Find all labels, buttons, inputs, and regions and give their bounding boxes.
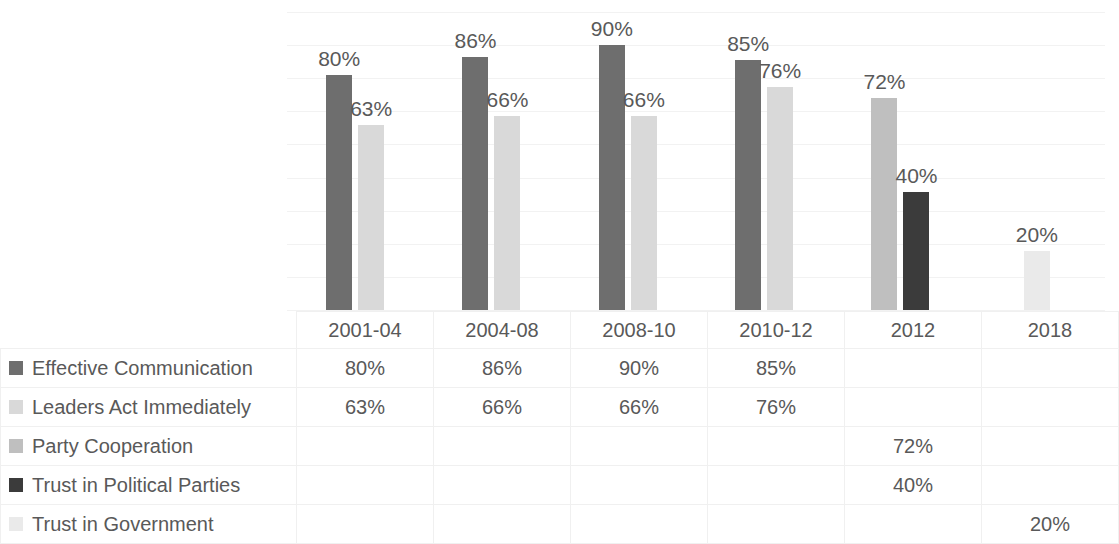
bar-value-label: 80% xyxy=(318,48,360,69)
table-row: Effective Communication80%86%90%85% xyxy=(1,349,1119,388)
data-table: 2001-042004-082008-102010-1220122018Effe… xyxy=(0,311,1119,544)
bar-slot: 63% xyxy=(358,0,384,310)
bar-value-label: 85% xyxy=(727,33,769,54)
bar-group-2010-12: 85%76% xyxy=(696,0,832,311)
category-header-2001-04: 2001-04 xyxy=(297,312,434,349)
legend-entry: Trust in Government xyxy=(9,513,296,535)
legend-swatch-party-cooperation xyxy=(9,439,23,453)
legend-cell[interactable]: Party Cooperation xyxy=(1,427,297,466)
bar-value-label: 66% xyxy=(623,89,665,110)
bar-effective-communication-2010-12[interactable] xyxy=(735,60,761,310)
bar-group-bars: 20% xyxy=(969,0,1105,310)
table-cell-2012 xyxy=(845,505,982,544)
bar-leaders-act-immediately-2001-04[interactable] xyxy=(358,125,384,310)
legend-label: Party Cooperation xyxy=(32,435,193,457)
legend-cell[interactable]: Leaders Act Immediately xyxy=(1,388,297,427)
bar-value-label: 20% xyxy=(1016,224,1058,245)
bar-slot: 76% xyxy=(767,0,793,310)
category-header-2012: 2012 xyxy=(845,312,982,349)
bar-slot: 86% xyxy=(462,0,488,310)
bar-group-2018: 20% xyxy=(969,0,1105,311)
table-cell-2018: 20% xyxy=(982,505,1119,544)
legend-cell[interactable]: Trust in Political Parties xyxy=(1,466,297,505)
legend-entry: Effective Communication xyxy=(9,357,296,379)
bar-group-2008-10: 90%66% xyxy=(560,0,696,311)
table-cell-2010-12 xyxy=(708,466,845,505)
table-cell-2004-08: 66% xyxy=(434,388,571,427)
table-row: Leaders Act Immediately63%66%66%76% xyxy=(1,388,1119,427)
table-cell-2008-10 xyxy=(571,505,708,544)
legend-cell[interactable]: Trust in Government xyxy=(1,505,297,544)
category-header-2010-12: 2010-12 xyxy=(708,312,845,349)
legend-entry: Trust in Political Parties xyxy=(9,474,296,496)
bar-effective-communication-2008-10[interactable] xyxy=(599,45,625,310)
bar-group-2012: 72%40% xyxy=(832,0,968,311)
table-cell-2012: 40% xyxy=(845,466,982,505)
category-header-2004-08: 2004-08 xyxy=(434,312,571,349)
bar-leaders-act-immediately-2004-08[interactable] xyxy=(494,116,520,310)
table-cell-2001-04 xyxy=(297,505,434,544)
bar-slot: 90% xyxy=(599,0,625,310)
bar-value-label: 40% xyxy=(895,165,937,186)
table-cell-2010-12: 76% xyxy=(708,388,845,427)
table-cell-2012 xyxy=(845,349,982,388)
bar-trust-in-political-parties-2012[interactable] xyxy=(903,192,929,310)
bar-group-bars: 85%76% xyxy=(696,0,832,310)
bar-value-label: 66% xyxy=(486,89,528,110)
bar-slot: 85% xyxy=(735,0,761,310)
table-cell-2018 xyxy=(982,388,1119,427)
bar-leaders-act-immediately-2008-10[interactable] xyxy=(631,116,657,310)
table-cell-2018 xyxy=(982,466,1119,505)
bar-value-label: 72% xyxy=(863,71,905,92)
table-cell-2010-12 xyxy=(708,427,845,466)
bar-value-label: 90% xyxy=(591,18,633,39)
bar-group-bars: 90%66% xyxy=(560,0,696,310)
table-row: Party Cooperation72% xyxy=(1,427,1119,466)
bar-slot: 66% xyxy=(631,0,657,310)
legend-swatch-trust-in-political-parties xyxy=(9,478,23,492)
bar-group-2001-04: 80%63% xyxy=(287,0,423,311)
table-cell-2012: 72% xyxy=(845,427,982,466)
bar-group-bars: 86%66% xyxy=(423,0,559,310)
table-row: Trust in Political Parties40% xyxy=(1,466,1119,505)
legend-entry: Party Cooperation xyxy=(9,435,296,457)
bar-effective-communication-2004-08[interactable] xyxy=(462,57,488,310)
bar-slot: 66% xyxy=(494,0,520,310)
legend-label: Effective Communication xyxy=(32,357,253,379)
table-cell-2004-08 xyxy=(434,466,571,505)
table-row: Trust in Government20% xyxy=(1,505,1119,544)
bar-slot: 40% xyxy=(903,0,929,310)
bar-leaders-act-immediately-2010-12[interactable] xyxy=(767,87,793,310)
legend-swatch-leaders-act-immediately xyxy=(9,400,23,414)
legend-cell[interactable]: Effective Communication xyxy=(1,349,297,388)
bar-party-cooperation-2012[interactable] xyxy=(871,98,897,310)
table-cell-2004-08 xyxy=(434,427,571,466)
table-cell-2010-12 xyxy=(708,505,845,544)
bar-slot: 72% xyxy=(871,0,897,310)
bar-trust-in-government-2018[interactable] xyxy=(1024,251,1050,310)
table-cell-2001-04: 63% xyxy=(297,388,434,427)
plot-area: 80%63%86%66%90%66%85%76%72%40%20% xyxy=(287,0,1105,311)
table-cell-2018 xyxy=(982,349,1119,388)
legend-label: Trust in Government xyxy=(32,513,214,535)
legend-swatch-trust-in-government xyxy=(9,517,23,531)
bar-group-bars: 72%40% xyxy=(832,0,968,310)
table-cell-2010-12: 85% xyxy=(708,349,845,388)
legend-swatch-effective-communication xyxy=(9,361,23,375)
table-cell-2008-10: 90% xyxy=(571,349,708,388)
bar-value-label: 86% xyxy=(454,30,496,51)
data-table-body: 2001-042004-082008-102010-1220122018Effe… xyxy=(1,312,1119,544)
table-corner-cell xyxy=(1,312,297,349)
bar-value-label: 76% xyxy=(759,60,801,81)
bar-slot: 20% xyxy=(1024,0,1050,310)
bar-groups: 80%63%86%66%90%66%85%76%72%40%20% xyxy=(287,0,1105,311)
table-cell-2004-08: 86% xyxy=(434,349,571,388)
bar-group-bars: 80%63% xyxy=(287,0,423,310)
bar-group-2004-08: 86%66% xyxy=(423,0,559,311)
legend-label: Leaders Act Immediately xyxy=(32,396,251,418)
table-cell-2001-04 xyxy=(297,427,434,466)
table-cell-2008-10: 66% xyxy=(571,388,708,427)
bar-effective-communication-2001-04[interactable] xyxy=(326,75,352,310)
category-header-2018: 2018 xyxy=(982,312,1119,349)
table-cell-2001-04 xyxy=(297,466,434,505)
